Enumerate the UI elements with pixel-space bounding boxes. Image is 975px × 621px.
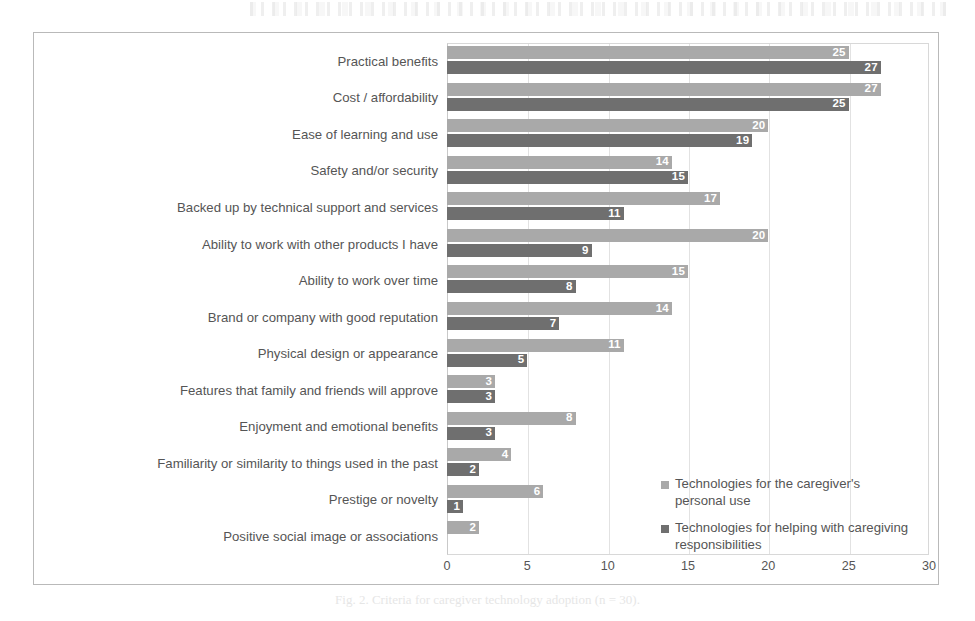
bar-value-label: 14 (656, 303, 672, 315)
bar-value-label: 14 (656, 156, 672, 168)
category-label: Prestige or novelty (34, 492, 447, 507)
bar-chart: Practical benefits2527Cost / affordabili… (34, 33, 938, 584)
category-label: Physical design or appearance (34, 346, 447, 361)
category-label: Enjoyment and emotional benefits (34, 419, 447, 434)
bar-personal-use: 2 (447, 521, 479, 534)
category-label: Ability to work with other products I ha… (34, 237, 447, 252)
bar-value-label: 20 (752, 230, 768, 242)
bar-personal-use: 3 (447, 375, 495, 388)
bar-value-label: 3 (486, 427, 496, 439)
bar-caregiving: 2 (447, 463, 479, 476)
bar-personal-use: 4 (447, 448, 511, 461)
chart-row: Brand or company with good reputation147 (34, 299, 938, 336)
bar-caregiving: 19 (447, 134, 752, 147)
chart-row: Ability to work over time158 (34, 262, 938, 299)
bar-personal-use: 20 (447, 119, 768, 132)
category-label: Backed up by technical support and servi… (34, 200, 447, 215)
bar-caregiving: 8 (447, 280, 576, 293)
category-label: Practical benefits (34, 54, 447, 69)
bar-value-label: 11 (608, 339, 624, 351)
bar-value-label: 2 (470, 464, 480, 476)
legend-swatch-personal-use (661, 481, 669, 489)
bar-value-label: 11 (608, 208, 624, 220)
chart-row: Safety and/or security1415 (34, 153, 938, 190)
bar-caregiving: 5 (447, 354, 527, 367)
category-label: Positive social image or associations (34, 529, 447, 544)
bar-value-label: 1 (453, 501, 463, 513)
bar-value-label: 7 (550, 318, 560, 330)
bar-personal-use: 14 (447, 156, 672, 169)
bar-caregiving: 1 (447, 500, 463, 513)
bar-caregiving: 27 (447, 61, 881, 74)
x-axis-tick-label: 30 (922, 559, 936, 573)
bar-value-label: 17 (704, 193, 720, 205)
bars-cell: 2527 (447, 43, 938, 80)
x-axis-tick-label: 0 (443, 559, 450, 573)
bar-personal-use: 20 (447, 229, 768, 242)
chart-row: Ability to work with other products I ha… (34, 226, 938, 263)
bars-cell: 115 (447, 336, 938, 373)
bar-personal-use: 8 (447, 412, 576, 425)
chart-row: Enjoyment and emotional benefits83 (34, 409, 938, 446)
bars-cell: 209 (447, 226, 938, 263)
bar-value-label: 19 (736, 135, 752, 147)
bar-value-label: 25 (832, 98, 848, 110)
bars-cell: 2725 (447, 80, 938, 117)
category-label: Ability to work over time (34, 273, 447, 288)
bar-value-label: 4 (502, 449, 512, 461)
bars-cell: 1415 (447, 153, 938, 190)
bars-cell: 158 (447, 262, 938, 299)
bar-caregiving: 7 (447, 317, 559, 330)
category-label: Ease of learning and use (34, 127, 447, 142)
chart-row: Features that family and friends will ap… (34, 372, 938, 409)
figure-frame: Practical benefits2527Cost / affordabili… (33, 32, 939, 585)
category-label: Features that family and friends will ap… (34, 383, 447, 398)
bar-caregiving: 25 (447, 98, 849, 111)
bars-cell: 2019 (447, 116, 938, 153)
bars-cell: 147 (447, 299, 938, 336)
bar-value-label: 3 (486, 376, 496, 388)
chart-row: Practical benefits2527 (34, 43, 938, 80)
bars-cell: 1711 (447, 189, 938, 226)
chart-legend: Technologies for the caregiver's persona… (661, 476, 911, 565)
category-label: Brand or company with good reputation (34, 310, 447, 325)
bars-cell: 83 (447, 409, 938, 446)
chart-row: Backed up by technical support and servi… (34, 189, 938, 226)
bar-value-label: 8 (566, 412, 576, 424)
bar-personal-use: 6 (447, 485, 543, 498)
bar-value-label: 15 (672, 266, 688, 278)
bar-caregiving: 11 (447, 207, 624, 220)
bars-cell: 33 (447, 372, 938, 409)
category-label: Cost / affordability (34, 90, 447, 105)
legend-label: Technologies for helping with caregiving… (675, 520, 911, 553)
bar-value-label: 8 (566, 281, 576, 293)
bar-value-label: 9 (582, 245, 592, 257)
chart-row: Ease of learning and use2019 (34, 116, 938, 153)
legend-label: Technologies for the caregiver's persona… (675, 476, 911, 509)
figure-caption: Fig. 2. Criteria for caregiver technolog… (0, 592, 975, 608)
bar-value-label: 25 (832, 47, 848, 59)
legend-swatch-caregiving (661, 525, 669, 533)
bar-caregiving: 3 (447, 390, 495, 403)
category-label: Familiarity or similarity to things used… (34, 456, 447, 471)
bar-value-label: 2 (470, 522, 480, 534)
category-label: Safety and/or security (34, 163, 447, 178)
legend-item: Technologies for helping with caregiving… (661, 520, 911, 553)
bar-caregiving: 3 (447, 427, 495, 440)
x-axis-tick-label: 5 (524, 559, 531, 573)
bar-personal-use: 14 (447, 302, 672, 315)
chart-row: Cost / affordability2725 (34, 80, 938, 117)
bar-caregiving: 9 (447, 244, 592, 257)
scan-noise-artifact (250, 2, 950, 16)
bar-personal-use: 15 (447, 265, 688, 278)
bar-value-label: 15 (672, 171, 688, 183)
chart-row: Physical design or appearance115 (34, 336, 938, 373)
bar-value-label: 6 (534, 486, 544, 498)
bar-caregiving: 15 (447, 171, 688, 184)
bar-value-label: 3 (486, 391, 496, 403)
bar-personal-use: 17 (447, 192, 720, 205)
bar-value-label: 27 (865, 62, 881, 74)
bar-value-label: 27 (865, 83, 881, 95)
bar-personal-use: 27 (447, 83, 881, 96)
bar-personal-use: 11 (447, 339, 624, 352)
